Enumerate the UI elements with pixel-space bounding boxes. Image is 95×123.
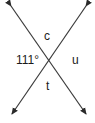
angle-label-right: u [72, 54, 79, 66]
angle-label-top: c [44, 30, 50, 42]
intersecting-lines-figure [0, 0, 95, 123]
angle-diagram: c 111° u t [0, 0, 95, 123]
angle-label-bottom: t [46, 80, 49, 92]
angle-label-left: 111° [16, 54, 39, 66]
